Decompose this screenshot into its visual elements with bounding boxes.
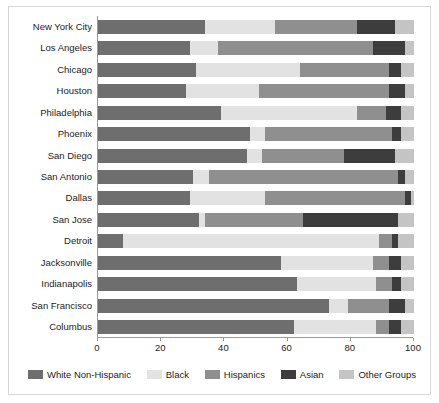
legend-swatch-other-groups-icon bbox=[339, 370, 354, 379]
bar-segment-black bbox=[186, 84, 259, 98]
y-axis-label-houston: Houston bbox=[4, 84, 92, 98]
bar-segment-black bbox=[297, 277, 376, 291]
bar-segment-black bbox=[190, 41, 218, 55]
bar-row bbox=[98, 299, 413, 313]
bar-segment-white-non-hispanic bbox=[98, 256, 281, 270]
legend-label: Asian bbox=[300, 369, 324, 380]
bar-row bbox=[98, 234, 413, 248]
bar-row bbox=[98, 63, 413, 77]
x-axis-tick-label: 100 bbox=[405, 342, 421, 353]
bar-segment-other-groups bbox=[401, 127, 414, 141]
bar-segment-hispanics bbox=[357, 106, 385, 120]
legend-item-other-groups[interactable]: Other Groups bbox=[339, 369, 416, 380]
x-axis-tick bbox=[97, 338, 98, 341]
bar-segment-hispanics bbox=[376, 277, 392, 291]
bar-row bbox=[98, 277, 413, 291]
bar-segment-black bbox=[329, 299, 348, 313]
x-axis-tick bbox=[413, 338, 414, 341]
bar-track bbox=[98, 277, 413, 291]
bar-segment-asian bbox=[357, 20, 395, 34]
bar-track bbox=[98, 234, 413, 248]
bar-segment-other-groups bbox=[405, 170, 414, 184]
bar-segment-hispanics bbox=[259, 84, 389, 98]
x-axis-tick bbox=[350, 338, 351, 341]
bar-segment-white-non-hispanic bbox=[98, 213, 199, 227]
legend-swatch-hispanics-icon bbox=[205, 370, 220, 379]
bar-segment-black bbox=[247, 149, 263, 163]
y-axis-label-chicago: Chicago bbox=[4, 63, 92, 77]
bar-segment-asian bbox=[386, 106, 402, 120]
x-axis-tick bbox=[223, 338, 224, 341]
legend-label: Black bbox=[166, 369, 189, 380]
bar-segment-hispanics bbox=[262, 149, 344, 163]
bar-row bbox=[98, 213, 413, 227]
legend-item-asian[interactable]: Asian bbox=[281, 369, 324, 380]
bar-track bbox=[98, 84, 413, 98]
bar-segment-hispanics bbox=[373, 256, 389, 270]
bar-row bbox=[98, 256, 413, 270]
x-axis-tick-label: 0 bbox=[94, 342, 99, 353]
bar-track bbox=[98, 256, 413, 270]
bar-segment-asian bbox=[392, 277, 401, 291]
bar-segment-black bbox=[250, 127, 266, 141]
bar-segment-black bbox=[281, 256, 373, 270]
bar-track bbox=[98, 191, 413, 205]
legend-label: White Non-Hispanic bbox=[47, 369, 131, 380]
bar-segment-white-non-hispanic bbox=[98, 149, 247, 163]
bar-row bbox=[98, 149, 413, 163]
bar-segment-white-non-hispanic bbox=[98, 277, 297, 291]
x-axis-tick-label: 40 bbox=[218, 342, 229, 353]
y-axis-label-san-diego: San Diego bbox=[4, 149, 92, 163]
plot-area bbox=[97, 16, 413, 338]
bar-track bbox=[98, 149, 413, 163]
bar-segment-asian bbox=[303, 213, 398, 227]
bar-segment-other-groups bbox=[401, 320, 414, 334]
chart-legend: White Non-HispanicBlackHispanicsAsianOth… bbox=[14, 364, 426, 384]
y-axis-category-labels: New York CityLos AngelesChicagoHoustonPh… bbox=[0, 16, 92, 338]
bar-segment-asian bbox=[389, 320, 402, 334]
bar-segment-white-non-hispanic bbox=[98, 41, 190, 55]
legend-item-white-non-hispanic[interactable]: White Non-Hispanic bbox=[28, 369, 131, 380]
bar-segment-white-non-hispanic bbox=[98, 20, 205, 34]
y-axis-label-indianapolis: Indianapolis bbox=[4, 277, 92, 291]
x-axis-tick-label: 80 bbox=[345, 342, 356, 353]
y-axis-label-philadelphia: Philadelphia bbox=[4, 106, 92, 120]
bar-segment-white-non-hispanic bbox=[98, 299, 329, 313]
bar-segment-asian bbox=[389, 299, 405, 313]
legend-item-hispanics[interactable]: Hispanics bbox=[205, 369, 265, 380]
bar-segment-white-non-hispanic bbox=[98, 84, 186, 98]
bar-track bbox=[98, 127, 413, 141]
bar-segment-hispanics bbox=[379, 234, 392, 248]
bar-row bbox=[98, 106, 413, 120]
legend-label: Other Groups bbox=[358, 369, 416, 380]
bar-segment-asian bbox=[389, 256, 402, 270]
y-axis-label-jacksonville: Jacksonville bbox=[4, 256, 92, 270]
bar-segment-other-groups bbox=[395, 149, 414, 163]
bar-segment-asian bbox=[392, 127, 401, 141]
bar-segment-other-groups bbox=[398, 213, 414, 227]
bar-segment-asian bbox=[389, 63, 402, 77]
bar-segment-hispanics bbox=[265, 127, 391, 141]
legend-item-black[interactable]: Black bbox=[147, 369, 189, 380]
bar-segment-hispanics bbox=[348, 299, 389, 313]
y-axis-label-dallas: Dallas bbox=[4, 191, 92, 205]
bar-segment-asian bbox=[389, 84, 405, 98]
bar-segment-other-groups bbox=[411, 191, 414, 205]
bar-track bbox=[98, 20, 413, 34]
bar-segment-other-groups bbox=[398, 234, 414, 248]
bar-segment-other-groups bbox=[401, 63, 414, 77]
x-axis-tick-label: 60 bbox=[281, 342, 292, 353]
y-axis-label-new-york-city: New York City bbox=[4, 20, 92, 34]
legend-swatch-black-icon bbox=[147, 370, 162, 379]
bar-segment-white-non-hispanic bbox=[98, 170, 193, 184]
bar-segment-white-non-hispanic bbox=[98, 127, 250, 141]
bar-track bbox=[98, 213, 413, 227]
bar-track bbox=[98, 41, 413, 55]
legend-label: Hispanics bbox=[224, 369, 265, 380]
bar-segment-hispanics bbox=[265, 191, 404, 205]
bar-segment-black bbox=[205, 20, 275, 34]
y-axis-label-san-jose: San Jose bbox=[4, 213, 92, 227]
x-axis-tick-label: 20 bbox=[155, 342, 166, 353]
bar-row bbox=[98, 84, 413, 98]
bar-segment-other-groups bbox=[395, 20, 414, 34]
